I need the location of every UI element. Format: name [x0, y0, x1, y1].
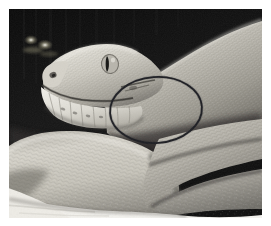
photograph — [9, 9, 262, 218]
film-grain — [9, 9, 262, 218]
photograph-canvas — [9, 9, 262, 218]
figure-root: Snake head and coiled body with ellipse … — [0, 0, 271, 226]
